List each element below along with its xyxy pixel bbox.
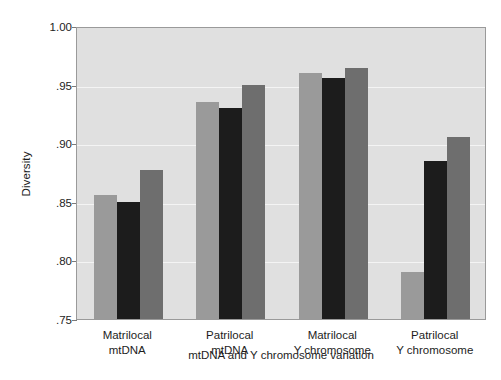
x-axis-title: mtDNA and Y chromosome variation <box>76 349 486 361</box>
bar <box>242 85 265 319</box>
bar <box>196 102 219 319</box>
y-axis-tick-3: .85 <box>36 197 72 209</box>
bar <box>94 195 117 319</box>
bar <box>299 73 322 319</box>
y-axis-tick-mark <box>72 320 77 321</box>
x-axis-tick-label-line: Patrilocal <box>179 328 282 343</box>
y-axis-tick-label: .90 <box>56 138 72 150</box>
y-axis-tick-4: .80 <box>36 255 72 267</box>
x-axis-tick-label-line: Matrilocal <box>281 328 384 343</box>
y-axis-tick-label: .75 <box>56 314 72 326</box>
bar <box>117 202 140 319</box>
plot-area <box>76 27 486 320</box>
x-axis-tick-label-line: Matrilocal <box>76 328 179 343</box>
y-axis-tick-labels: 1.00.95.90.85.80.75 <box>36 0 72 380</box>
bar <box>424 161 447 319</box>
bar <box>447 137 470 319</box>
y-axis-tick-label: .85 <box>56 197 72 209</box>
bar <box>140 170 163 319</box>
bars-layer <box>77 28 485 319</box>
y-axis-title: Diversity <box>14 0 36 347</box>
y-axis-tick-label: .80 <box>56 255 72 267</box>
y-axis-tick-2: .90 <box>36 138 72 150</box>
y-axis-tick-5: .75 <box>36 314 72 326</box>
y-axis-title-label: Diversity <box>19 151 31 196</box>
y-axis-tick-1: .95 <box>36 80 72 92</box>
y-axis-tick-label: 1.00 <box>50 21 72 33</box>
bar <box>219 108 242 319</box>
bar <box>322 78 345 319</box>
y-axis-tick-label: .95 <box>56 80 72 92</box>
x-axis-tick-label-line: Patrilocal <box>384 328 487 343</box>
bar <box>401 272 424 319</box>
bar <box>345 68 368 319</box>
chart-figure: Diversity 1.00.95.90.85.80.75 Matrilocal… <box>0 0 501 380</box>
y-axis-tick-0: 1.00 <box>36 21 72 33</box>
